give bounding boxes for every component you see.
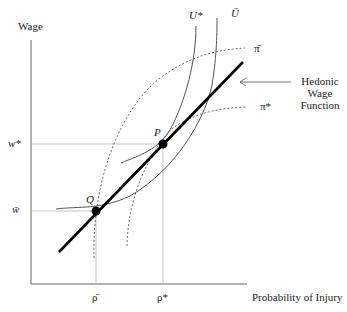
point-p-label: P xyxy=(154,127,161,138)
pi-bar-label: π̄ xyxy=(254,43,260,54)
rho-bar-tick: ρ̄ xyxy=(92,292,98,303)
x-axis-label: Probability of Injury xyxy=(252,292,342,303)
point-q xyxy=(92,207,101,216)
isoprofit-pi-star xyxy=(127,107,247,246)
annotation-line-2: Wage xyxy=(293,87,347,99)
hedonic-wage-line xyxy=(59,62,243,252)
u-bar-label: Ū xyxy=(231,8,239,19)
y-axis-label: Wage xyxy=(18,21,43,32)
point-q-label: Q xyxy=(86,194,94,205)
point-p xyxy=(159,140,168,149)
isoprofit-pi-bar xyxy=(94,48,245,258)
w-bar-tick: w̄ xyxy=(12,204,19,215)
annotation-line-3: Function xyxy=(293,99,347,111)
pi-star-label: π* xyxy=(260,101,271,112)
hedonic-annotation: Hedonic Wage Function xyxy=(293,75,347,111)
indifference-u-star xyxy=(121,26,196,163)
annotation-line-1: Hedonic xyxy=(293,75,347,87)
rho-star-tick: ρ* xyxy=(157,292,168,303)
w-star-tick: w* xyxy=(8,138,21,149)
u-star-label: U* xyxy=(189,10,202,21)
diagram-canvas xyxy=(0,0,347,312)
